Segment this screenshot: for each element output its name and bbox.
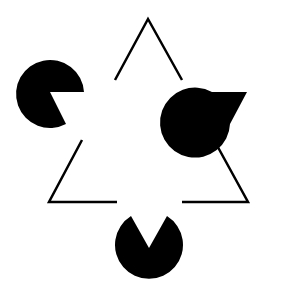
kanizsa-triangle-figure <box>0 0 294 296</box>
illusion-canvas <box>0 0 294 296</box>
